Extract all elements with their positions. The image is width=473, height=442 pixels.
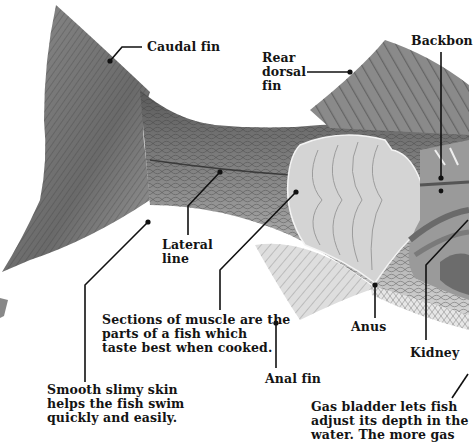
label-line: Anal fin [265,372,321,386]
caudal-fin-shape [2,5,150,272]
label-line: Caudal fin [147,40,220,54]
label-line: Lateral [162,238,213,252]
label-line: Backbon [411,34,473,48]
label-line: Smooth slimy skin [47,383,184,397]
label-skin: Smooth slimy skin helps the fish swim qu… [47,383,184,425]
label-gas-bladder: Gas bladder lets fish adjust its depth i… [311,400,468,442]
label-line: line [162,252,213,266]
label-backbone: Backbon [411,34,473,48]
label-line: Gas bladder lets fish [311,400,468,414]
label-line: Anus [351,320,386,334]
rear-dorsal-fin-shape [310,40,469,135]
label-muscle: Sections of muscle are the parts of a fi… [102,313,290,355]
label-line: adjust its depth in the [311,414,468,428]
caudal-fin-lower-tip [0,298,8,318]
label-anal-fin: Anal fin [265,372,321,386]
label-line: helps the fish swim [47,397,184,411]
label-caudal-fin: Caudal fin [147,40,220,54]
label-line: Sections of muscle are the [102,313,290,327]
label-lateral-line: Lateral line [162,238,213,266]
label-kidney: Kidney [410,346,459,360]
label-line: dorsal [262,65,306,79]
label-rear-dorsal-fin: Rear dorsal fin [262,51,306,93]
label-line: quickly and easily. [47,411,184,425]
label-line: Kidney [410,346,459,360]
label-line: taste best when cooked. [102,341,290,355]
label-line: parts of a fish which [102,327,290,341]
label-line: water. The more gas [311,428,468,442]
label-line: Rear [262,51,306,65]
label-line: fin [262,79,306,93]
label-anus: Anus [351,320,386,334]
